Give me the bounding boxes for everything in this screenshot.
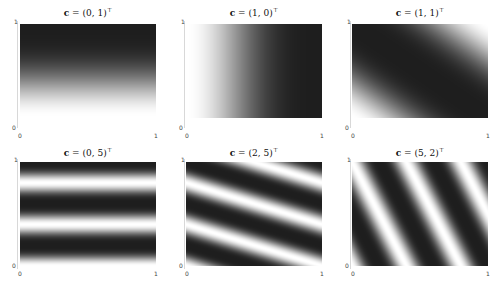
y-tick-max: 1 <box>14 156 18 163</box>
x-tick-max: 1 <box>486 132 490 139</box>
heatmap-plot <box>352 162 488 266</box>
y-tick-max: 1 <box>14 18 18 25</box>
x-tick-min: 0 <box>18 132 22 139</box>
y-tick-max: 1 <box>181 156 185 163</box>
panel-title: c = (1, 0)⊤ <box>230 6 279 18</box>
panel-title: c = (1, 1)⊤ <box>396 6 445 18</box>
x-tick-min: 0 <box>351 132 355 139</box>
x-tick-max: 1 <box>154 132 158 139</box>
y-tick-min: 0 <box>179 262 183 269</box>
y-tick-max: 1 <box>347 18 351 25</box>
y-tick-min: 0 <box>12 262 16 269</box>
y-tick-max: 1 <box>181 18 185 25</box>
x-tick-min: 0 <box>185 132 189 139</box>
y-tick-max: 1 <box>347 156 351 163</box>
panel-title: c = (0, 5)⊤ <box>64 146 113 158</box>
y-tick-min: 0 <box>345 124 349 131</box>
x-tick-max: 1 <box>154 270 158 277</box>
panel-title: c = (5, 2)⊤ <box>396 146 445 158</box>
x-tick-min: 0 <box>185 270 189 277</box>
heatmap-plot <box>186 24 322 118</box>
panel-title: c = (2, 5)⊤ <box>230 146 279 158</box>
x-tick-max: 1 <box>486 270 490 277</box>
heatmap-plot <box>186 162 322 266</box>
y-axis-line <box>17 21 18 128</box>
heatmap-plot <box>20 162 156 266</box>
y-axis-line <box>184 21 185 128</box>
x-tick-max: 1 <box>320 132 324 139</box>
y-tick-min: 0 <box>345 262 349 269</box>
y-axis-line <box>184 159 185 269</box>
x-tick-min: 0 <box>18 270 22 277</box>
heatmap-plot <box>352 24 488 118</box>
y-axis-line <box>350 21 351 128</box>
y-axis-line <box>350 159 351 269</box>
y-tick-min: 0 <box>179 124 183 131</box>
x-tick-max: 1 <box>320 270 324 277</box>
x-tick-min: 0 <box>351 270 355 277</box>
heatmap-plot <box>20 24 156 118</box>
y-tick-min: 0 <box>12 124 16 131</box>
y-axis-line <box>17 159 18 269</box>
panel-title: c = (0, 1)⊤ <box>64 6 113 18</box>
